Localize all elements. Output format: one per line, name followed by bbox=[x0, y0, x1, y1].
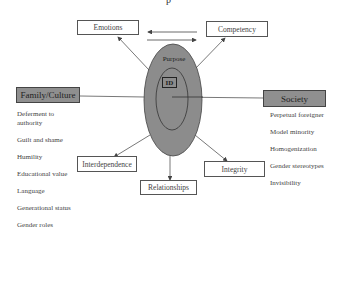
title-fragment: p bbox=[166, 0, 171, 5]
list-item: Language bbox=[17, 187, 75, 196]
list-item: Gender roles bbox=[17, 221, 75, 230]
list-item: Humility bbox=[17, 153, 75, 162]
list-item: Model minority bbox=[270, 128, 332, 137]
list-item: Homogenization bbox=[270, 145, 332, 154]
list-item: Deferment to authority bbox=[17, 110, 75, 128]
list-item: Educational value bbox=[17, 170, 75, 179]
competency-node: Competency bbox=[206, 21, 268, 37]
society-list: Perpetual foreigner Model minority Homog… bbox=[270, 111, 332, 196]
list-item: Perpetual foreigner bbox=[270, 111, 332, 120]
family-culture-header: Family/Culture bbox=[16, 87, 80, 103]
id-label: ID bbox=[162, 77, 177, 88]
interdependence-node: Interdependence bbox=[77, 156, 137, 172]
integrity-node: Integrity bbox=[204, 161, 265, 177]
list-item: Invisibility bbox=[270, 179, 332, 188]
list-item: Generational status bbox=[17, 204, 75, 213]
society-header: Society bbox=[263, 90, 326, 107]
emotions-node: Emotions bbox=[77, 20, 139, 35]
relationships-node: Relationships bbox=[140, 180, 197, 195]
list-item: Guilt and shame bbox=[17, 136, 75, 145]
purpose-label: Purpose bbox=[158, 55, 190, 63]
family-culture-list: Deferment to authority Guilt and shame H… bbox=[17, 110, 75, 238]
list-item: Gender stereotypes bbox=[270, 162, 332, 171]
